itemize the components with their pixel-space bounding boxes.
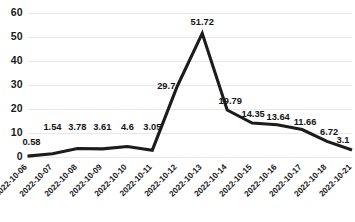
y-axis-tick-label: 60 [11, 6, 23, 18]
data-point-label: 3.05 [143, 122, 161, 132]
data-point-label: 19.79 [219, 96, 242, 106]
y-axis-tick-label: 0 [17, 150, 23, 162]
data-point-label: 6.72 [320, 127, 338, 137]
y-axis-tick-label: 20 [11, 102, 23, 114]
data-point-label: 0.58 [22, 137, 40, 147]
data-point-label: 14.35 [242, 109, 265, 119]
y-axis-tick-label: 10 [11, 126, 23, 138]
data-point-label: 3.61 [93, 122, 111, 132]
data-point-label: 1.54 [43, 122, 62, 132]
y-axis-tick-label: 50 [11, 30, 23, 42]
data-point-label: 4.6 [121, 122, 134, 132]
data-point-label: 29.7 [157, 81, 175, 91]
chart-canvas: 0102030405060 2022-10-062022-10-072022-1… [0, 0, 355, 222]
data-point-label: 13.64 [266, 112, 290, 122]
y-axis-tick-label: 40 [11, 54, 23, 66]
line-chart: 0102030405060 2022-10-062022-10-072022-1… [0, 0, 355, 222]
data-point-label: 11.66 [294, 117, 317, 127]
data-point-label: 3.1 [337, 135, 350, 145]
y-axis-tick-label: 30 [11, 78, 23, 90]
data-point-label: 51.72 [191, 17, 214, 27]
data-point-label: 3.78 [68, 122, 86, 132]
